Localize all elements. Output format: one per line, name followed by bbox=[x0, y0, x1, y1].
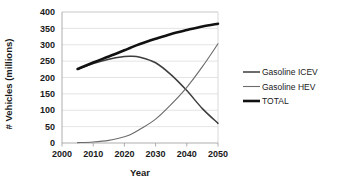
x-axis-tick-labels: 200020102020203020402050 bbox=[52, 149, 228, 159]
y-tick-label: 150 bbox=[40, 89, 55, 99]
y-tick-label: 50 bbox=[45, 122, 55, 132]
x-axis-tickmarks bbox=[62, 143, 218, 147]
series-line-gasoline-icev bbox=[78, 56, 218, 123]
y-tick-label: 0 bbox=[50, 138, 55, 148]
legend-label-gasoline-icev: Gasoline ICEV bbox=[262, 67, 318, 77]
y-tick-label: 400 bbox=[40, 7, 55, 17]
y-tick-label: 350 bbox=[40, 24, 55, 34]
x-tick-label: 2010 bbox=[83, 149, 103, 159]
y-axis-tick-labels: 050100150200250300350400 bbox=[40, 7, 55, 148]
x-tick-label: 2030 bbox=[146, 149, 166, 159]
y-tick-label: 100 bbox=[40, 105, 55, 115]
legend-label-total: TOTAL bbox=[262, 96, 289, 106]
series-line-gasoline-hev bbox=[78, 44, 218, 143]
legend-label-gasoline-hev: Gasoline HEV bbox=[262, 82, 316, 92]
y-tick-label: 250 bbox=[40, 56, 55, 66]
y-axis-title: # Vehicles (millions) bbox=[3, 39, 14, 130]
x-axis-title: Year bbox=[130, 167, 150, 178]
data-series-group bbox=[78, 24, 218, 143]
x-tick-label: 2040 bbox=[177, 149, 197, 159]
y-tick-label: 200 bbox=[40, 73, 55, 83]
chart-legend: Gasoline ICEVGasoline HEVTOTAL bbox=[243, 67, 318, 106]
chart-figure: 050100150200250300350400 200020102020203… bbox=[0, 0, 337, 183]
x-tick-label: 2020 bbox=[114, 149, 134, 159]
y-tick-label: 300 bbox=[40, 40, 55, 50]
x-tick-label: 2000 bbox=[52, 149, 72, 159]
line-chart: 050100150200250300350400 200020102020203… bbox=[0, 0, 337, 183]
x-tick-label: 2050 bbox=[208, 149, 228, 159]
